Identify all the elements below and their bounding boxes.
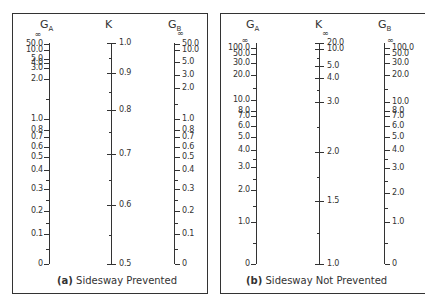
major-tick: [385, 193, 390, 194]
major-tick: [175, 137, 180, 138]
panel-b-gb-label: 1.0: [392, 218, 404, 226]
major-tick: [315, 78, 324, 79]
panel-b-ga-label: 20.0: [233, 71, 250, 79]
panel-b-ga-label: 50.0: [233, 50, 250, 58]
minor-tick: [175, 180, 178, 181]
panel-b-ga-label: 30.0: [233, 59, 250, 67]
minor-tick: [46, 249, 49, 250]
minor-tick: [317, 127, 320, 128]
major-tick: [251, 126, 256, 127]
panel-b-k-label: 3.0: [327, 98, 339, 106]
major-tick: [175, 211, 180, 212]
panel-a-gb-label: 5.0: [182, 58, 194, 66]
major-tick: [251, 167, 256, 168]
major-tick: [385, 126, 390, 127]
panel-b-caption: (b) Sidesway Not Prevented: [246, 275, 387, 286]
panel-b-gb-label: 5.0: [392, 133, 404, 141]
panel-b-k-label: 5.0: [327, 62, 339, 70]
major-tick: [385, 54, 390, 55]
minor-tick: [46, 200, 49, 201]
panel-a-ga-label: 0.1: [31, 230, 43, 238]
panel-a-k-label: 0.9: [119, 69, 131, 77]
panel-b-ga-label: 10.0: [233, 96, 250, 104]
panel-a-gb-label: 0.5: [182, 153, 194, 161]
panel-a-caption: (a) Sidesway Prevented: [57, 275, 177, 286]
panel-b-gb-label: 30.0: [392, 59, 409, 67]
panel-b-gb-label: 2.0: [392, 189, 404, 197]
major-tick: [385, 48, 390, 49]
major-tick: [175, 119, 180, 120]
panel-b-k-label: 10.0: [327, 45, 344, 53]
major-tick: [385, 137, 390, 138]
major-tick: [251, 100, 256, 101]
panel-a-gb-label: 0.4: [182, 166, 194, 174]
panel-a-gb-axis: [174, 43, 175, 264]
major-tick: [44, 211, 49, 212]
minor-tick: [317, 90, 320, 91]
major-tick: [44, 59, 49, 60]
major-tick: [315, 102, 324, 103]
panel-b-ga-label: 1.0: [238, 218, 250, 226]
major-tick: [385, 111, 390, 112]
major-tick: [107, 43, 116, 44]
minor-tick: [253, 159, 256, 160]
major-tick: [251, 48, 256, 49]
panel-a-ga-label: 0.2: [31, 207, 43, 215]
panel-b-k-axis: [319, 43, 320, 264]
major-tick: [44, 137, 49, 138]
major-tick: [175, 44, 180, 45]
panel-a-gb-label: 2.0: [182, 84, 194, 92]
major-tick: [175, 88, 180, 89]
panel-b-ga-label: 5.0: [238, 133, 250, 141]
panel-a-k-label: 0.8: [119, 106, 131, 114]
major-tick: [175, 264, 180, 265]
minor-tick: [385, 159, 388, 160]
panel-a-ga-label: 0.5: [31, 153, 43, 161]
minor-tick: [317, 177, 320, 178]
panel-a-gb-label: 10.0: [182, 46, 199, 54]
panel-b-k-label: 1.5: [327, 197, 339, 205]
major-tick: [385, 63, 390, 64]
panel-b-gb-label: 6.0: [392, 122, 404, 130]
major-tick: [107, 154, 116, 155]
panel-b-ga-label: 4.0: [238, 146, 250, 154]
major-tick: [44, 50, 49, 51]
panel-a-ga-label: ∞: [35, 31, 41, 39]
panel-a-k-label: 0.7: [119, 150, 131, 158]
major-tick: [44, 147, 49, 148]
minor-tick: [109, 180, 112, 181]
panel-b-gb-label: 3.0: [392, 164, 404, 172]
panel-b-gb-axis: [384, 43, 385, 264]
major-tick: [107, 73, 116, 74]
minor-tick: [109, 92, 112, 93]
major-tick: [44, 44, 49, 45]
major-tick: [44, 68, 49, 69]
panel-b-gb-label: 50.0: [392, 50, 409, 58]
minor-tick: [385, 89, 388, 90]
minor-tick: [175, 104, 178, 105]
minor-tick: [385, 181, 388, 182]
major-tick: [385, 116, 390, 117]
minor-tick: [175, 223, 178, 224]
major-tick: [44, 63, 49, 64]
panel-b-k-label: ∞: [322, 30, 328, 38]
panel-b-ga-label: 2.0: [238, 186, 250, 194]
minor-tick: [175, 200, 178, 201]
panel-a-k-label: 0.5: [119, 260, 131, 268]
panel-a-gb-label: 3.0: [182, 71, 194, 79]
major-tick: [251, 116, 256, 117]
minor-tick: [253, 88, 256, 89]
major-tick: [44, 234, 49, 235]
minor-tick: [253, 243, 256, 244]
minor-tick: [46, 223, 49, 224]
major-tick: [315, 264, 324, 265]
panel-b-ga-label: 3.0: [238, 163, 250, 171]
major-tick: [175, 75, 180, 76]
panel-a-ga-label: 0.3: [31, 185, 43, 193]
panel-a-ga-label: 10.0: [26, 46, 43, 54]
panel-a-ga-label: 2.0: [31, 75, 43, 83]
major-tick: [175, 170, 180, 171]
panel-a-k-title: K: [105, 18, 112, 31]
panel-b-ga-label: 0: [245, 260, 250, 268]
panel-b-gb-title: GB: [378, 18, 391, 33]
